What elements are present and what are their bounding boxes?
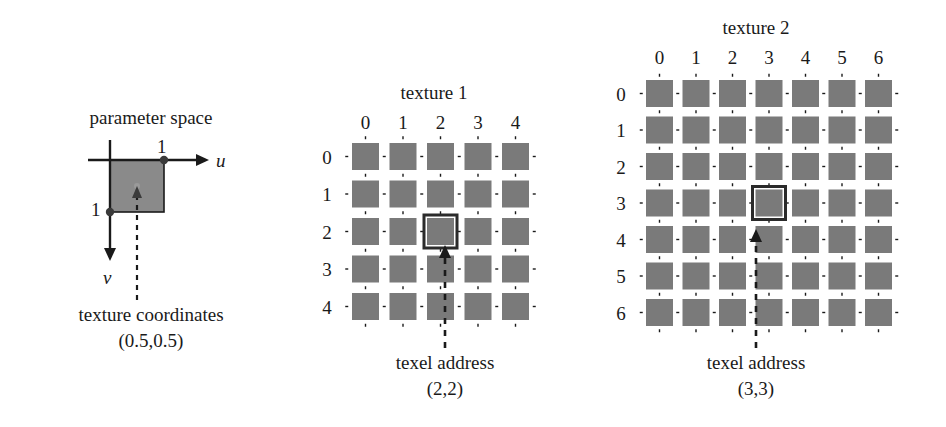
texel-cell [719,263,746,290]
texture2-column-label: 4 [801,48,811,67]
texel-cell [829,80,856,107]
texel-cell [646,299,673,326]
texel-cell [646,190,673,217]
texel-cell [390,181,417,208]
texel-cell [792,299,819,326]
texel-cell [390,218,417,245]
texture2-column-label: 6 [874,48,884,67]
v-unit-tick-label: 1 [91,200,101,219]
texel-cell [352,293,379,320]
texel-cell [829,153,856,180]
texel-cell [756,263,783,290]
texture2-row-label: 5 [616,267,626,286]
texel-cell [390,143,417,170]
texel-cell [646,117,673,144]
u-axis-label: u [216,151,226,170]
texture2-column-label: 0 [655,48,665,67]
texel-cell [829,226,856,253]
texture2-caption-line1: texel address [707,353,806,372]
texel-cell [427,143,454,170]
texture1-column-label: 3 [473,113,483,132]
parameter-space-title: parameter space [90,108,213,127]
texture2-caption-line2: (3,3) [738,379,774,398]
texture1-row-label: 3 [322,260,332,279]
texel-cell [465,218,492,245]
texel-cell [390,256,417,283]
texel-cell [683,299,710,326]
texel-cell [683,117,710,144]
texture1-caption-line2: (2,2) [427,379,463,398]
u-unit-dot [160,156,168,164]
texel-cell [865,226,892,253]
texel-cell [829,190,856,217]
texture1-row-label: 4 [322,297,332,316]
texel-cell [719,153,746,180]
texture1-row-label: 2 [322,222,332,241]
texture1-column-label: 1 [398,113,408,132]
texture1-column-label: 2 [436,113,446,132]
texel-cell [683,226,710,253]
texel-cell [646,263,673,290]
texel-cell [502,143,529,170]
texture-coordinates-caption-line2: (0.5,0.5) [119,331,184,350]
texel-cell [683,263,710,290]
texel-cell [792,263,819,290]
texel-cell [719,117,746,144]
texel-cell [756,80,783,107]
texel-cell [756,153,783,180]
texture-mapping-diagram: parameter space 1 1 u v texture coordina… [0,0,946,427]
texel-cell [756,190,783,217]
texture1-title: texture 1 [400,83,467,102]
texture2-row-label: 0 [616,84,626,103]
texel-cell [792,153,819,180]
texel-cell [792,117,819,144]
texel-cell [646,153,673,180]
texel-cell [427,256,454,283]
texel-cell [465,181,492,208]
texel-cell [352,256,379,283]
texel-cell [719,299,746,326]
texel-cell [865,117,892,144]
texture2-column-label: 3 [764,48,774,67]
texel-cell [792,190,819,217]
texel-cell [829,299,856,326]
texel-cell [502,293,529,320]
texel-cell [683,80,710,107]
texture1-caption-line1: texel address [396,353,495,372]
texture1-column-label: 4 [511,113,521,132]
texel-cell [719,80,746,107]
texel-cell [719,226,746,253]
texel-cell [465,293,492,320]
texel-cell [465,143,492,170]
texel-cell [352,181,379,208]
texture-coordinates-caption-line1: texture coordinates [78,305,223,324]
texture2-row-label: 3 [616,194,626,213]
texel-cell [502,256,529,283]
texture2-column-label: 1 [691,48,701,67]
texture1-row-label: 1 [322,185,332,204]
texel-cell [683,153,710,180]
v-axis-label: v [103,268,111,287]
u-axis-arrowhead [196,154,209,166]
texel-cell [865,299,892,326]
texel-cell [465,256,492,283]
texel-cell [683,190,710,217]
texel-cell [829,263,856,290]
texture1-grid [345,136,536,327]
texture2-title: texture 2 [722,18,789,37]
texel-cell [792,80,819,107]
texel-cell [646,226,673,253]
texture2-row-label: 6 [616,303,626,322]
texel-cell [829,117,856,144]
texture1-row-label: 0 [322,147,332,166]
texture2-row-label: 2 [616,157,626,176]
v-axis-arrowhead [104,248,116,261]
texel-cell [502,218,529,245]
texel-cell [865,190,892,217]
v-unit-dot [106,208,114,216]
texture1-column-label: 0 [361,113,371,132]
texel-cell [427,181,454,208]
texture2-row-label: 1 [616,121,626,140]
texel-cell [756,299,783,326]
texture2-grid [640,74,899,333]
